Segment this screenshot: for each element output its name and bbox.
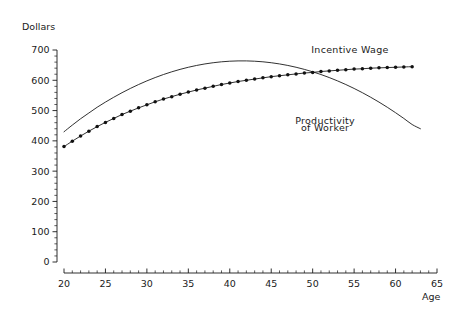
y-tick-label: 100 bbox=[31, 226, 49, 237]
data-series-group bbox=[62, 61, 420, 148]
series-marker bbox=[336, 69, 340, 73]
series-marker bbox=[62, 145, 66, 149]
y-tick-label: 700 bbox=[31, 44, 49, 55]
series-marker bbox=[153, 100, 157, 104]
y-tick-label: 400 bbox=[31, 135, 49, 146]
series-marker bbox=[187, 90, 191, 94]
series-marker bbox=[253, 77, 257, 81]
x-tick-label: 60 bbox=[390, 278, 402, 289]
series-marker bbox=[344, 68, 348, 72]
series-marker bbox=[195, 88, 199, 92]
series-marker bbox=[410, 65, 414, 69]
series-marker bbox=[294, 72, 298, 76]
chart-labels-group: DollarsAgeIncentive WageProductivityof W… bbox=[22, 21, 441, 302]
series-marker bbox=[327, 69, 331, 73]
series-marker bbox=[402, 65, 406, 69]
series-marker bbox=[319, 70, 323, 74]
series-marker bbox=[361, 67, 365, 71]
x-tick-label: 20 bbox=[58, 278, 70, 289]
x-tick-label: 40 bbox=[224, 278, 236, 289]
series-line-incentive-wage bbox=[64, 67, 412, 147]
series-marker bbox=[211, 85, 215, 89]
series-marker bbox=[203, 86, 207, 90]
series-marker bbox=[137, 106, 141, 110]
series-marker bbox=[145, 103, 149, 107]
series-marker bbox=[220, 83, 224, 87]
series-marker bbox=[278, 74, 282, 78]
chart-figure: 0100200300400500600700 20253035404550556… bbox=[0, 0, 469, 321]
chart-plot-area: 0100200300400500600700 20253035404550556… bbox=[0, 0, 469, 321]
y-tick-label: 500 bbox=[31, 105, 49, 116]
series-marker bbox=[303, 71, 307, 75]
y-tick-label: 300 bbox=[31, 166, 49, 177]
series-marker bbox=[245, 79, 249, 83]
series-line-productivity-of-worker bbox=[64, 61, 420, 132]
series-marker bbox=[369, 66, 373, 70]
series-marker bbox=[236, 80, 240, 84]
series-incentive-wage bbox=[62, 65, 414, 148]
series-productivity-of-worker bbox=[64, 61, 420, 132]
series-marker bbox=[95, 125, 99, 128]
series-marker bbox=[261, 76, 265, 80]
series-marker bbox=[228, 81, 232, 85]
x-axis-title: Age bbox=[422, 291, 441, 302]
annotation-incentive-wage: Incentive Wage bbox=[311, 44, 388, 55]
x-tick-label: 25 bbox=[99, 278, 111, 289]
x-tick-label: 30 bbox=[141, 278, 153, 289]
x-tick-label: 45 bbox=[265, 278, 277, 289]
series-marker bbox=[352, 67, 356, 71]
series-marker bbox=[71, 139, 75, 143]
x-tick-label: 35 bbox=[182, 278, 194, 289]
annotation-productivity-line2: of Worker bbox=[301, 122, 349, 133]
series-marker bbox=[129, 109, 133, 113]
series-marker bbox=[386, 66, 390, 70]
series-marker bbox=[112, 117, 116, 121]
x-tick-label: 55 bbox=[348, 278, 360, 289]
series-marker bbox=[394, 66, 398, 70]
series-marker bbox=[170, 95, 174, 99]
x-axis: 20253035404550556065 bbox=[58, 269, 443, 289]
series-marker bbox=[311, 71, 315, 75]
series-marker bbox=[286, 73, 290, 77]
series-marker bbox=[87, 129, 91, 133]
y-axis-title: Dollars bbox=[22, 21, 55, 32]
x-tick-label: 65 bbox=[431, 278, 443, 289]
series-marker bbox=[178, 92, 182, 96]
y-axis: 0100200300400500600700 bbox=[31, 44, 57, 267]
x-tick-label: 50 bbox=[307, 278, 319, 289]
y-tick-label: 200 bbox=[31, 196, 49, 207]
series-marker bbox=[269, 75, 273, 79]
y-tick-label: 0 bbox=[43, 256, 49, 267]
series-marker bbox=[377, 66, 381, 70]
y-tick-label: 600 bbox=[31, 75, 49, 86]
series-marker bbox=[120, 113, 124, 117]
series-marker bbox=[162, 97, 166, 101]
series-marker bbox=[79, 134, 83, 138]
series-marker bbox=[104, 121, 108, 125]
